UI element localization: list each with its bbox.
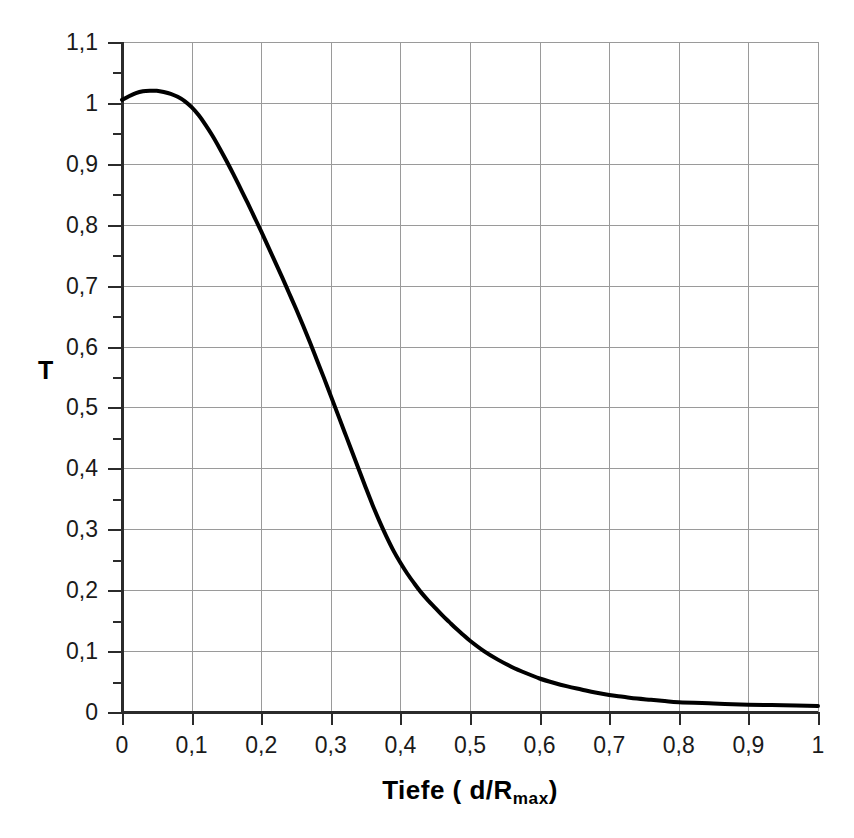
chart-figure: 00,10,20,30,40,50,60,70,80,911,1 00,10,2…: [0, 0, 854, 838]
x-axis-title-main: Tiefe ( d/R: [382, 775, 513, 805]
x-tick-label: 0,8: [663, 734, 695, 757]
y-tick-label: 0,9: [0, 152, 98, 175]
y-tick-label: 0,2: [0, 579, 98, 602]
y-tick-label: 1: [0, 91, 98, 114]
x-tick-label: 0,2: [245, 734, 277, 757]
vertical-gridlines: [123, 42, 819, 712]
x-axis-title-tail: ): [549, 775, 558, 805]
y-tick-label: 0,8: [0, 213, 98, 236]
x-tick-label: 0,6: [524, 734, 556, 757]
y-axis-title: T: [38, 358, 53, 383]
y-tick-label: 0,4: [0, 457, 98, 480]
x-tick-label: 0,3: [315, 734, 347, 757]
plot-canvas: [0, 0, 854, 838]
y-tick-label: 0,1: [0, 640, 98, 663]
x-axis-title-subscript: max: [513, 788, 549, 808]
x-tick-label: 0,5: [454, 734, 486, 757]
x-axis-major-ticks: [123, 712, 819, 725]
y-tick-label: 0: [0, 701, 98, 724]
x-tick-label: 0,7: [593, 734, 625, 757]
x-tick-label: 1: [812, 734, 825, 757]
x-axis-title: Tiefe ( d/Rmax): [382, 777, 558, 803]
y-tick-label: 1,1: [0, 31, 98, 54]
y-tick-label: 0,5: [0, 396, 98, 419]
y-tick-label: 0,3: [0, 518, 98, 541]
x-tick-label: 0: [116, 734, 129, 757]
y-tick-label: 0,7: [0, 274, 98, 297]
x-tick-label: 0,9: [732, 734, 764, 757]
x-tick-label: 0,4: [384, 734, 416, 757]
x-tick-label: 0,1: [176, 734, 208, 757]
